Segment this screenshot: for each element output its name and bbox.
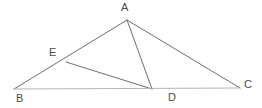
segment-ac bbox=[127, 20, 240, 88]
segments-group bbox=[14, 20, 240, 89]
geometry-figure: ABCDE bbox=[0, 0, 262, 108]
vertex-label-c: C bbox=[244, 79, 252, 90]
vertex-label-a: A bbox=[121, 2, 128, 13]
segment-ad bbox=[127, 20, 152, 89]
segment-ab bbox=[14, 20, 127, 89]
segment-bc bbox=[14, 88, 240, 89]
segment-ed bbox=[66, 62, 152, 89]
geometry-canvas bbox=[0, 0, 262, 108]
vertex-label-d: D bbox=[168, 92, 176, 103]
vertex-label-b: B bbox=[16, 93, 23, 104]
vertex-label-e: E bbox=[49, 47, 56, 58]
